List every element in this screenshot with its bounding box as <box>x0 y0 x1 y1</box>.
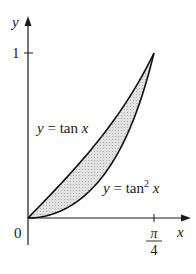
area-between-curves-diagram: y 1 0 x π 4 y = tan x y = tan2 x <box>0 0 196 274</box>
x-axis-arrow-icon <box>181 215 191 222</box>
x-axis-label: x <box>176 224 184 240</box>
label-tan-x: y = tan x <box>35 120 89 136</box>
label-tan-squared-x: y = tan2 x <box>101 178 160 196</box>
y-axis-label: y <box>10 14 19 30</box>
x-tick-label-numerator: π <box>150 226 158 241</box>
x-tick-label-denominator: 4 <box>151 243 158 258</box>
origin-label: 0 <box>14 225 22 241</box>
y-tick-label: 1 <box>12 45 20 61</box>
y-axis-arrow-icon <box>25 16 32 26</box>
